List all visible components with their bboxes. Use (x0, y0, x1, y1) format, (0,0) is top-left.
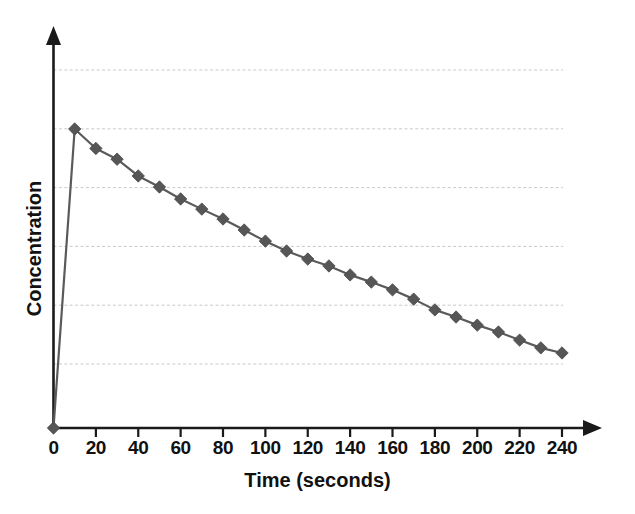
data-point-marker (365, 276, 377, 288)
concentration-series (47, 123, 568, 434)
y-axis-arrowhead (46, 26, 61, 45)
data-point-marker (535, 342, 547, 354)
data-point-marker (259, 235, 271, 247)
x-axis-tick-marks (96, 428, 562, 437)
data-point-marker (492, 326, 504, 338)
y-axis-label: Concentration (23, 134, 46, 364)
series-markers (47, 123, 568, 434)
data-point-marker (344, 269, 356, 281)
data-point-marker (386, 284, 398, 296)
data-point-marker (407, 293, 419, 305)
data-point-marker (471, 319, 483, 331)
x-axis-arrowhead (583, 420, 602, 436)
data-point-marker (302, 253, 314, 265)
data-point-marker (196, 203, 208, 215)
concentration-vs-time-chart: 020406080100120140160180200220240 Time (… (0, 0, 635, 514)
data-point-marker (47, 422, 59, 434)
gridlines (54, 70, 564, 364)
axes (46, 26, 602, 436)
data-point-marker (323, 260, 335, 272)
data-point-marker (153, 181, 165, 193)
data-point-marker (450, 311, 462, 323)
x-axis-label: Time (seconds) (0, 469, 635, 492)
data-point-marker (238, 224, 250, 236)
data-point-marker (217, 213, 229, 225)
data-point-marker (174, 193, 186, 205)
data-point-marker (556, 347, 568, 359)
plot-area (0, 0, 635, 514)
series-line (54, 129, 563, 428)
data-point-marker (513, 334, 525, 346)
